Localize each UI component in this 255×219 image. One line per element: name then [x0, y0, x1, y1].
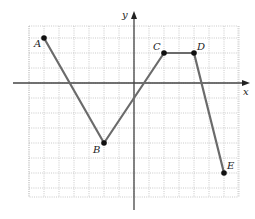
coordinate-plane: x y ABCDE — [0, 0, 255, 219]
point-d — [191, 50, 197, 56]
point-label-b: B — [92, 144, 100, 155]
x-axis-label: x — [243, 86, 249, 97]
point-label-c: C — [153, 41, 161, 52]
y-axis-arrow-icon — [131, 11, 137, 19]
point-c — [161, 50, 167, 56]
point-label-e: E — [226, 160, 235, 171]
point-a — [41, 35, 47, 41]
point-label-a: A — [33, 38, 41, 49]
y-axis-label: y — [121, 9, 128, 20]
axes: x y — [13, 9, 250, 210]
point-b — [101, 140, 107, 146]
point-label-d: D — [196, 41, 205, 52]
point-e — [221, 170, 227, 176]
